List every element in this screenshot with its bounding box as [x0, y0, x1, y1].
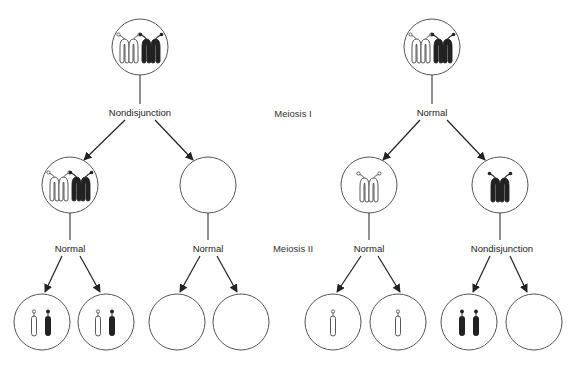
- gamete-cell: [441, 294, 497, 350]
- gamete-cell-empty: [149, 294, 205, 350]
- left-meiosis1-event-label: Nondisjunction: [107, 107, 173, 118]
- right-meiosis1-event-label: Normal: [415, 107, 450, 118]
- right-meiosis2-event-label-b: Nondisjunction: [469, 243, 535, 254]
- gamete-cell: [14, 294, 70, 350]
- gamete-cell: [78, 294, 134, 350]
- gamete-cell-empty: [506, 294, 562, 350]
- meiosis2-stage-label: Meiosis II: [271, 243, 315, 254]
- left-meiosis2-event-label-a: Normal: [53, 243, 88, 254]
- meiosis1-product-cell-empty: [180, 157, 236, 213]
- left-panel: [14, 19, 269, 350]
- gamete-cell-empty: [213, 294, 269, 350]
- meiosis1-stage-label: Meiosis I: [272, 108, 313, 119]
- right-panel: [305, 19, 562, 350]
- left-meiosis2-event-label-b: Normal: [191, 243, 226, 254]
- right-meiosis2-event-label-a: Normal: [352, 243, 387, 254]
- meiosis-diagram: [0, 0, 575, 365]
